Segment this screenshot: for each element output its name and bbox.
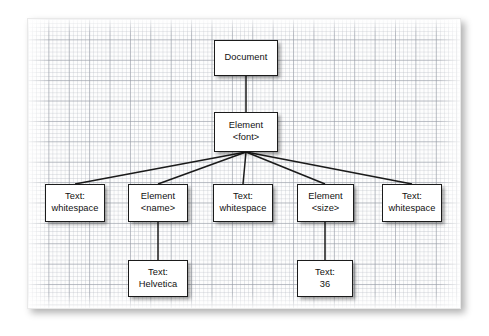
node-text-36[interactable]: Text:36 [297, 260, 353, 297]
node-label-primary: Text: [65, 191, 85, 203]
node-element-size[interactable]: Element<size> [297, 184, 354, 222]
node-label-secondary: Helvetica [139, 279, 178, 291]
node-label-primary: Text: [233, 191, 253, 203]
node-text-whitespace-2[interactable]: Text:whitespace [213, 184, 273, 222]
node-document[interactable]: Document [214, 40, 278, 76]
node-label-primary: Text: [148, 267, 168, 279]
node-text-whitespace-1[interactable]: Text:whitespace [45, 184, 105, 222]
node-label-secondary: 36 [320, 279, 330, 291]
node-label-primary: Text: [402, 191, 422, 203]
node-element-name[interactable]: Element<name> [128, 184, 188, 222]
node-text-helvetica[interactable]: Text:Helvetica [128, 260, 188, 297]
node-label-secondary: <name> [141, 203, 175, 215]
node-label-primary: Document [225, 52, 268, 64]
node-label-primary: Element [308, 191, 342, 203]
node-label-primary: Text: [315, 267, 335, 279]
node-label-secondary: whitespace [51, 203, 98, 215]
node-element-font[interactable]: Element<font> [214, 112, 278, 152]
node-text-whitespace-3[interactable]: Text:whitespace [382, 184, 442, 222]
node-label-primary: Element [141, 191, 175, 203]
node-label-secondary: whitespace [219, 203, 266, 215]
node-label-secondary: <font> [233, 132, 260, 144]
node-label-primary: Element [229, 120, 263, 132]
node-label-secondary: whitespace [388, 203, 435, 215]
diagram-canvas: DocumentElement<font>Text:whitespaceElem… [0, 0, 489, 336]
node-label-secondary: <size> [312, 203, 340, 215]
